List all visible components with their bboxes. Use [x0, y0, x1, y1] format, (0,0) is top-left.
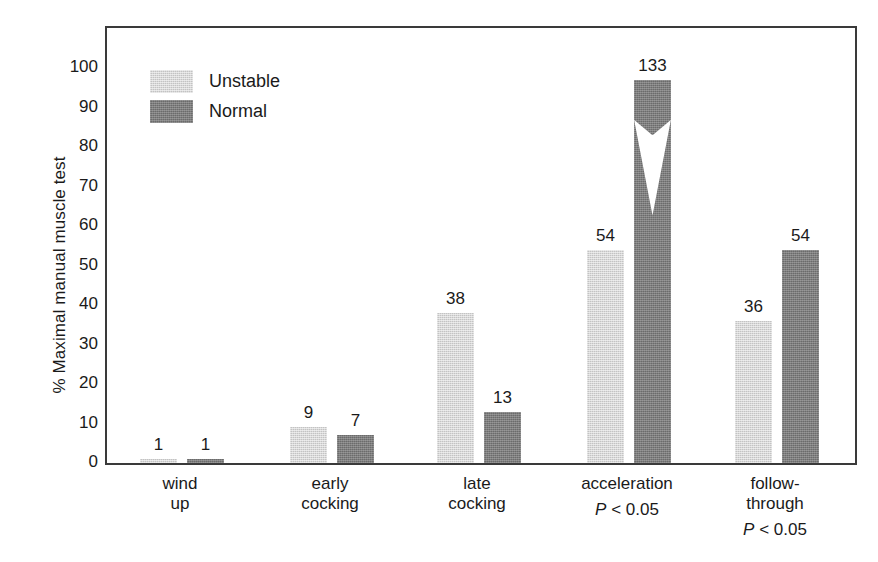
x-label-line: cocking [392, 494, 562, 514]
bar-wind-up-unstable [140, 459, 177, 463]
bar-acceleration-normal-lower-segment [634, 119, 671, 463]
bar-late-cocking-unstable [437, 313, 474, 463]
value-label-late-cocking-normal: 13 [473, 388, 533, 408]
x-label-line: wind [95, 474, 265, 494]
legend-label-unstable: Unstable [209, 71, 280, 92]
y-tick-label: 0 [40, 452, 98, 472]
x-label-wind-up: windup [95, 474, 265, 514]
x-label-line: through [690, 494, 860, 514]
y-tick-label: 20 [40, 373, 98, 393]
p-symbol: P [743, 520, 754, 539]
x-label-line: up [95, 494, 265, 514]
y-tick-label: 80 [40, 136, 98, 156]
legend-item-unstable: Unstable [150, 68, 280, 94]
bar-late-cocking-normal [484, 412, 521, 463]
value-label-acceleration-normal: 133 [623, 56, 683, 76]
unstable-swatch-icon [150, 70, 193, 93]
value-label-acceleration-unstable: 54 [576, 226, 636, 246]
p-symbol: P [595, 500, 606, 519]
x-label-line: follow- [690, 474, 860, 494]
y-tick-label: 60 [40, 215, 98, 235]
bar-early-cocking-unstable [290, 427, 327, 463]
bar-follow-through-normal [782, 250, 819, 463]
y-tick-label: 30 [40, 334, 98, 354]
value-label-follow-through-unstable: 36 [724, 297, 784, 317]
x-label-early-cocking: earlycocking [245, 474, 415, 514]
y-tick-label: 50 [40, 255, 98, 275]
normal-swatch-icon [150, 100, 193, 123]
x-label-line: late [392, 474, 562, 494]
legend: Unstable Normal [150, 68, 280, 128]
bar-early-cocking-normal [337, 435, 374, 463]
y-tick-label: 100 [40, 57, 98, 77]
value-label-early-cocking-normal: 7 [326, 411, 386, 431]
legend-label-normal: Normal [209, 101, 267, 122]
p-value-annotation: P < 0.05 [542, 500, 712, 520]
legend-item-normal: Normal [150, 98, 280, 124]
bar-chart-figure: % Maximal manual muscle test 01020304050… [0, 0, 878, 562]
x-label-follow-through: follow-throughP < 0.05 [690, 474, 860, 540]
p-value-annotation: P < 0.05 [690, 520, 860, 540]
bar-follow-through-unstable [735, 321, 772, 463]
value-label-late-cocking-unstable: 38 [426, 289, 486, 309]
y-tick-label: 70 [40, 176, 98, 196]
bar-wind-up-normal [187, 459, 224, 463]
y-tick-label: 10 [40, 413, 98, 433]
y-tick-label: 90 [40, 97, 98, 117]
x-label-acceleration: accelerationP < 0.05 [542, 474, 712, 520]
x-label-late-cocking: latecocking [392, 474, 562, 514]
plot-area: 11973813541333654 Unstable Normal [105, 26, 857, 465]
bar-acceleration-normal-upper-segment [634, 80, 671, 135]
value-label-wind-up-normal: 1 [176, 435, 236, 455]
value-label-follow-through-normal: 54 [771, 226, 831, 246]
x-label-line: cocking [245, 494, 415, 514]
y-tick-label: 40 [40, 294, 98, 314]
x-label-line: early [245, 474, 415, 494]
bar-acceleration-unstable [587, 250, 624, 463]
x-label-line: acceleration [542, 474, 712, 494]
